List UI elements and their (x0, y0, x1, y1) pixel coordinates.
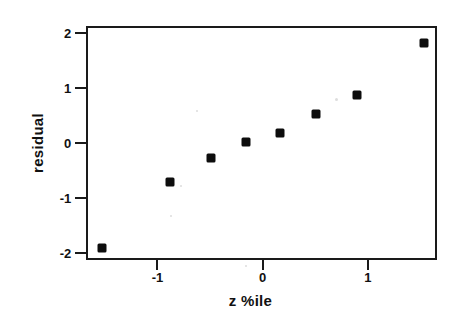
data-point (241, 137, 250, 146)
x-tick-label: -1 (142, 270, 172, 285)
scan-speckle (245, 265, 247, 267)
plot-frame (86, 26, 437, 260)
x-tick-mark (262, 259, 264, 270)
data-point (165, 177, 174, 186)
y-tick-label: 0 (45, 136, 71, 151)
x-axis-title: z %ile (0, 292, 461, 309)
x-tick-mark (367, 259, 369, 270)
y-tick-label: 1 (45, 80, 71, 95)
scan-speckle (196, 110, 198, 112)
y-tick-label: -1 (45, 191, 71, 206)
scan-speckle (180, 185, 182, 187)
x-tick-mark (156, 259, 158, 270)
data-point (206, 154, 215, 163)
plot-area (88, 28, 435, 258)
data-point (420, 39, 429, 48)
y-tick-mark (75, 142, 86, 144)
y-tick-label: -2 (45, 246, 71, 261)
x-axis-title-text: z %ile (189, 292, 272, 309)
y-tick-mark (75, 32, 86, 34)
y-tick-label: 2 (45, 25, 71, 40)
x-tick-label: 0 (248, 270, 278, 285)
y-tick-mark (75, 87, 86, 89)
scan-speckle (335, 98, 338, 101)
data-point (312, 110, 321, 119)
y-tick-mark (75, 252, 86, 254)
data-point (97, 244, 106, 253)
x-tick-label: 1 (353, 270, 383, 285)
scan-speckle (170, 215, 172, 217)
data-point (353, 91, 362, 100)
data-point (276, 129, 285, 138)
y-tick-mark (75, 197, 86, 199)
y-axis-title: residual (29, 113, 46, 173)
chart-figure: 210-1-2 -101 residual z %ile (0, 0, 461, 326)
